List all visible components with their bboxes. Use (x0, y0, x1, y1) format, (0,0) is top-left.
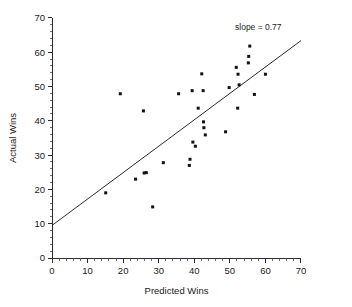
plot-area: 010203040506070 010203040506070 slope = … (0, 0, 352, 307)
x-tick-label: 20 (118, 265, 129, 276)
x-tick-label: 30 (153, 265, 164, 276)
data-point (228, 86, 231, 89)
data-point (248, 45, 251, 48)
data-point (188, 164, 191, 167)
data-point (202, 120, 205, 123)
data-point (145, 171, 148, 174)
scatter-chart: 010203040506070 010203040506070 slope = … (0, 0, 352, 307)
x-axis-tick-labels: 010203040506070 (49, 265, 306, 276)
slope-annotation-label: slope = 0.77 (235, 22, 282, 32)
data-point (202, 89, 205, 92)
data-point (202, 126, 205, 129)
data-point (189, 158, 192, 161)
x-axis-ticks (52, 258, 301, 263)
data-point (224, 130, 227, 133)
data-point (247, 55, 250, 58)
data-point (238, 83, 241, 86)
data-point (235, 66, 238, 69)
data-point (119, 92, 122, 95)
x-axis-title: Predicted Wins (145, 285, 209, 296)
data-point (151, 205, 154, 208)
y-axis-ticks (48, 18, 53, 258)
data-point (236, 107, 239, 110)
y-tick-label: 10 (34, 218, 45, 229)
data-point (134, 178, 137, 181)
data-point (104, 191, 107, 194)
x-tick-label: 10 (82, 265, 93, 276)
data-point (194, 145, 197, 148)
data-point (191, 141, 194, 144)
data-point (197, 107, 200, 110)
y-tick-label: 20 (34, 184, 45, 195)
annotations-group: slope = 0.77 (235, 22, 282, 32)
y-tick-label: 70 (34, 12, 45, 23)
data-point (247, 61, 250, 64)
y-tick-label: 0 (40, 252, 45, 263)
axes-group (52, 18, 301, 258)
data-point (191, 89, 194, 92)
y-tick-label: 50 (34, 81, 45, 92)
regression-line-group (52, 41, 301, 226)
data-point (264, 73, 267, 76)
data-point (204, 133, 207, 136)
data-point (200, 72, 203, 75)
regression-line (52, 41, 301, 226)
y-tick-label: 40 (34, 115, 45, 126)
data-point (162, 161, 165, 164)
data-point (142, 109, 145, 112)
data-point (177, 92, 180, 95)
y-axis-title: Actual Wins (7, 113, 18, 163)
x-tick-label: 60 (260, 265, 271, 276)
y-tick-label: 60 (34, 47, 45, 58)
y-tick-label: 30 (34, 150, 45, 161)
y-axis-tick-labels: 010203040506070 (34, 12, 45, 263)
x-tick-label: 50 (225, 265, 236, 276)
data-point (253, 93, 256, 96)
x-tick-label: 70 (296, 265, 307, 276)
x-tick-label: 0 (49, 265, 54, 276)
x-tick-label: 40 (189, 265, 200, 276)
data-point (237, 73, 240, 76)
